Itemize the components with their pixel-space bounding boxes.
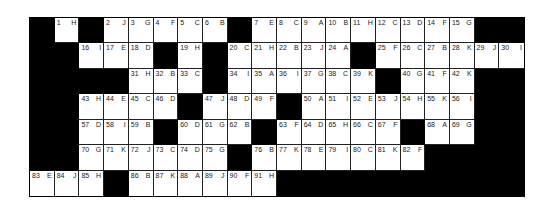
grid-cell[interactable]: 61G — [203, 120, 228, 145]
grid-cell[interactable]: 9A — [302, 18, 327, 43]
grid-cell[interactable]: 16I — [79, 43, 104, 68]
grid-cell[interactable]: 39K — [351, 69, 376, 94]
grid-cell[interactable]: 84J — [55, 171, 80, 196]
block-cell — [499, 120, 524, 145]
cell-letter: F — [443, 70, 447, 78]
grid-cell[interactable]: 32B — [154, 69, 179, 94]
grid-cell[interactable]: 19H — [178, 43, 203, 68]
grid-cell[interactable]: 49F — [252, 94, 277, 119]
grid-cell[interactable]: 66C — [351, 120, 376, 145]
grid-cell[interactable]: 1H — [55, 18, 80, 43]
grid-cell[interactable]: 52E — [351, 94, 376, 119]
grid-cell[interactable]: 5C — [178, 18, 203, 43]
grid-cell[interactable]: 88A — [178, 171, 203, 196]
grid-cell[interactable]: 47J — [203, 94, 228, 119]
grid-cell[interactable]: 60D — [178, 120, 203, 145]
grid-cell[interactable]: 69G — [450, 120, 475, 145]
grid-cell[interactable]: 2J — [104, 18, 129, 43]
grid-cell[interactable]: 14F — [425, 18, 450, 43]
grid-cell[interactable]: 12C — [376, 18, 401, 43]
grid-cell[interactable]: 74D — [178, 145, 203, 170]
grid-cell[interactable]: 75G — [203, 145, 228, 170]
grid-cell[interactable]: 42K — [450, 69, 475, 94]
cell-letter: A — [195, 172, 200, 180]
grid-cell[interactable]: 91H — [252, 171, 277, 196]
grid-cell[interactable]: 76B — [252, 145, 277, 170]
grid-cell[interactable]: 51I — [326, 94, 351, 119]
grid-cell[interactable]: 27B — [425, 43, 450, 68]
grid-cell[interactable]: 50A — [302, 94, 327, 119]
grid-cell[interactable]: 3G — [129, 18, 154, 43]
grid-cell[interactable]: 24A — [326, 43, 351, 68]
grid-cell[interactable]: 34I — [228, 69, 253, 94]
grid-cell[interactable]: 30I — [499, 43, 524, 68]
grid-cell[interactable]: 72J — [129, 145, 154, 170]
grid-cell[interactable]: 73C — [154, 145, 179, 170]
grid-cell[interactable]: 38C — [326, 69, 351, 94]
grid-cell[interactable]: 82F — [401, 145, 426, 170]
grid-cell[interactable]: 81K — [376, 145, 401, 170]
grid-cell[interactable]: 70G — [79, 145, 104, 170]
cell-letter: D — [96, 121, 101, 129]
grid-cell[interactable]: 23J — [302, 43, 327, 68]
grid-cell[interactable]: 22B — [277, 43, 302, 68]
grid-cell[interactable]: 10B — [326, 18, 351, 43]
grid-cell[interactable]: 40G — [401, 69, 426, 94]
grid-cell[interactable]: 58I — [104, 120, 129, 145]
grid-cell[interactable]: 37G — [302, 69, 327, 94]
grid-cell[interactable]: 11H — [351, 18, 376, 43]
grid-cell[interactable]: 20C — [228, 43, 253, 68]
grid-cell[interactable]: 53J — [376, 94, 401, 119]
grid-cell[interactable]: 87K — [154, 171, 179, 196]
grid-cell[interactable]: 35A — [252, 69, 277, 94]
grid-cell[interactable]: 18D — [129, 43, 154, 68]
grid-cell[interactable]: 25F — [376, 43, 401, 68]
grid-cell[interactable]: 29J — [475, 43, 500, 68]
grid-cell[interactable]: 31H — [129, 69, 154, 94]
grid-cell[interactable]: 83E — [30, 171, 55, 196]
grid-cell[interactable]: 45C — [129, 94, 154, 119]
grid-cell[interactable]: 26C — [401, 43, 426, 68]
grid-cell[interactable]: 90F — [228, 171, 253, 196]
cell-number: 43 — [81, 95, 89, 103]
grid-cell[interactable]: 62B — [228, 120, 253, 145]
grid-cell[interactable]: 41F — [425, 69, 450, 94]
grid-cell[interactable]: 85H — [79, 171, 104, 196]
grid-cell[interactable]: 79I — [326, 145, 351, 170]
grid-cell[interactable]: 4F — [154, 18, 179, 43]
grid-cell[interactable]: 68A — [425, 120, 450, 145]
grid-cell[interactable]: 59B — [129, 120, 154, 145]
grid-cell[interactable]: 56I — [450, 94, 475, 119]
block-cell — [401, 120, 426, 145]
block-cell — [30, 145, 55, 170]
grid-cell[interactable]: 64D — [302, 120, 327, 145]
grid-cell[interactable]: 63F — [277, 120, 302, 145]
grid-cell[interactable]: 28K — [450, 43, 475, 68]
grid-cell[interactable]: 71K — [104, 145, 129, 170]
grid-cell[interactable]: 78E — [302, 145, 327, 170]
grid-cell[interactable]: 77K — [277, 145, 302, 170]
grid-cell[interactable]: 33C — [178, 69, 203, 94]
grid-cell[interactable]: 44E — [104, 94, 129, 119]
grid-cell[interactable]: 6B — [203, 18, 228, 43]
grid-cell[interactable]: 13D — [401, 18, 426, 43]
grid-cell[interactable]: 89J — [203, 171, 228, 196]
grid-cell[interactable]: 15G — [450, 18, 475, 43]
grid-cell[interactable]: 43H — [79, 94, 104, 119]
grid-cell[interactable]: 80C — [351, 145, 376, 170]
cell-letter: H — [145, 70, 150, 78]
grid-cell[interactable]: 67F — [376, 120, 401, 145]
grid-cell[interactable]: 54H — [401, 94, 426, 119]
grid-cell[interactable]: 57D — [79, 120, 104, 145]
grid-cell[interactable]: 8C — [277, 18, 302, 43]
grid-cell[interactable]: 17E — [104, 43, 129, 68]
cell-letter: K — [121, 146, 126, 154]
grid-cell[interactable]: 48D — [228, 94, 253, 119]
grid-cell[interactable]: 21H — [252, 43, 277, 68]
grid-cell[interactable]: 86B — [129, 171, 154, 196]
grid-cell[interactable]: 36I — [277, 69, 302, 94]
grid-cell[interactable]: 7E — [252, 18, 277, 43]
grid-cell[interactable]: 55K — [425, 94, 450, 119]
grid-cell[interactable]: 65H — [326, 120, 351, 145]
grid-cell[interactable]: 46D — [154, 94, 179, 119]
